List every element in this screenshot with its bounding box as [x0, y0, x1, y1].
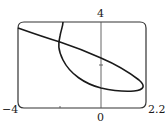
y-max-label: 4	[97, 8, 104, 19]
x-zero-label: 0	[97, 112, 104, 123]
curve	[18, 22, 143, 91]
plot-area	[0, 0, 165, 124]
x-max-label: 2.2	[148, 104, 165, 115]
x-min-label: −4	[2, 104, 18, 115]
